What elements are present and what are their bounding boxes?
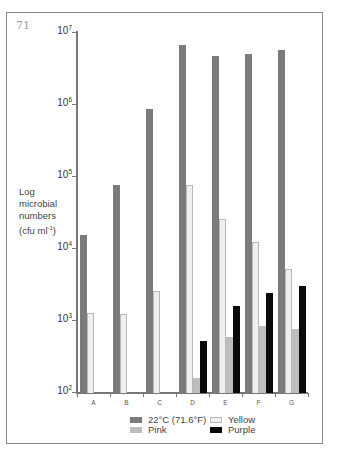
y-tick [72,320,77,321]
bar-purple [299,286,306,393]
figure-number: 71 [16,19,30,32]
bar-22c [179,45,186,393]
legend-swatch-purple [210,427,222,433]
legend-item-purple: Purple [210,424,255,435]
x-tick-label: D [176,399,209,406]
bar-purple [266,293,273,393]
bar-22c [212,56,219,393]
bar-pink [292,329,299,393]
bar-yellow [87,313,94,393]
x-tick [275,393,276,397]
x-tick [176,393,177,397]
y-tick-label: 102 [42,384,72,396]
x-tick-label: G [275,399,308,406]
y-tick-label: 103 [42,312,72,324]
bar-pink [226,337,233,393]
y-tick [72,32,77,33]
x-tick-label: A [77,399,110,406]
legend-swatch-gray [130,417,142,423]
y-tick [72,248,77,249]
x-tick [308,393,309,397]
bar-22c [245,54,252,393]
x-tick [77,393,78,397]
bar-yellow [285,269,292,393]
x-tick [209,393,210,397]
x-tick-label: C [143,399,176,406]
x-tick [242,393,243,397]
x-tick-label: B [110,399,143,406]
y-tick [72,104,77,105]
bar-purple [233,306,240,393]
y-tick [72,176,77,177]
y-tick-label: 104 [42,240,72,252]
y-tick-label: 106 [42,96,72,108]
legend-swatch-pink [130,427,142,433]
bar-22c [278,50,285,393]
y-tick-label: 105 [42,168,72,180]
bar-yellow [219,219,226,393]
x-tick-label: E [209,399,242,406]
y-tick-label: 107 [42,24,72,36]
legend-swatch-yellow [210,417,222,423]
x-tick [143,393,144,397]
bar-purple [200,341,207,393]
bar-yellow [252,242,259,393]
bar-22c [113,185,120,393]
x-tick-label: F [242,399,275,406]
bar-yellow [120,314,127,393]
bar-pink [259,326,266,393]
y-axis-label: Log microbial numbers (cfu ml-1) [19,186,57,237]
legend-item-pink: Pink [130,424,166,435]
bar-22c [146,109,153,393]
y-axis [76,31,78,394]
bar-22c [80,235,87,393]
x-tick [110,393,111,397]
bar-pink [193,378,200,393]
bar-yellow [186,185,193,393]
bar-yellow [153,291,160,393]
